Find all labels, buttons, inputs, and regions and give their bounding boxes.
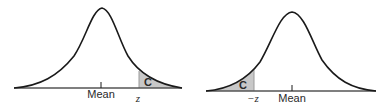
left-tail-diagram: Mean −z C <box>206 12 376 104</box>
mean-label: Mean <box>87 88 115 100</box>
shaded-area-label: C <box>239 79 247 91</box>
shaded-area-label: C <box>144 76 152 88</box>
mean-label: Mean <box>278 92 306 104</box>
bell-curve <box>206 12 376 91</box>
z-label: z <box>135 92 141 104</box>
shaded-left-tail-region <box>208 70 254 91</box>
bell-curve <box>14 8 182 88</box>
normal-distribution-figures: Mean z C Mean −z C <box>0 0 392 108</box>
right-tail-diagram: Mean z C <box>14 8 182 104</box>
neg-z-label: −z <box>247 92 259 104</box>
